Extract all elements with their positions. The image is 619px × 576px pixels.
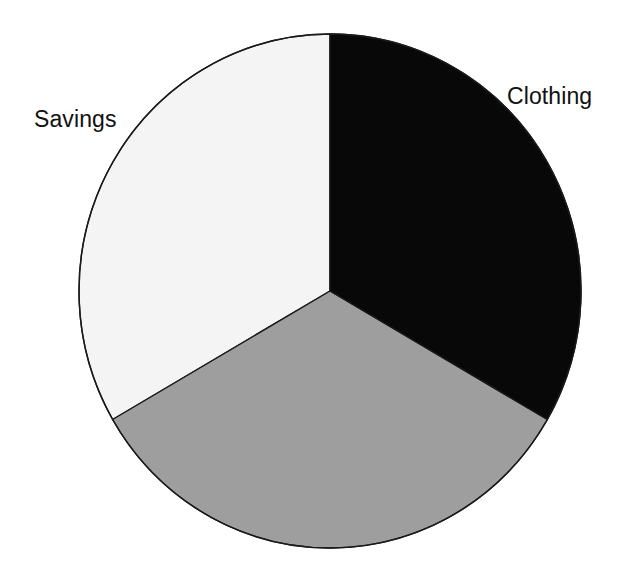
pie-label-clothing: Clothing	[507, 85, 592, 108]
pie-label-savings: Savings	[34, 108, 117, 131]
pie-chart-figure: Savings Clothing	[0, 0, 619, 576]
